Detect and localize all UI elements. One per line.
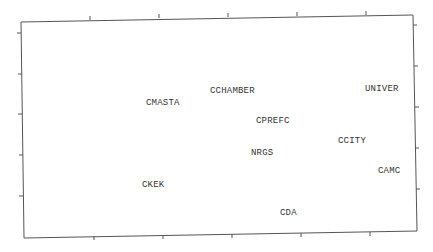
point-label-univer: UNIVER [365, 84, 399, 94]
point-label-cchamber: CCHAMBER [210, 86, 255, 96]
plot-frame [21, 15, 417, 238]
point-label-cmasta: CMASTA [146, 98, 180, 108]
point-labels: CMASTA CCHAMBER UNIVER CPREFC NRGS CCITY… [142, 84, 401, 218]
scatter-plot: CMASTA CCHAMBER UNIVER CPREFC NRGS CCITY… [0, 0, 433, 252]
point-label-nrgs: NRGS [251, 148, 273, 158]
point-label-camc: CAMC [378, 166, 401, 176]
axis-ticks [17, 11, 420, 240]
point-label-ckek: CKEK [142, 180, 165, 190]
point-label-cprefc: CPREFC [256, 116, 290, 126]
point-label-cda: CDA [280, 208, 297, 218]
point-label-ccity: CCITY [338, 136, 366, 146]
